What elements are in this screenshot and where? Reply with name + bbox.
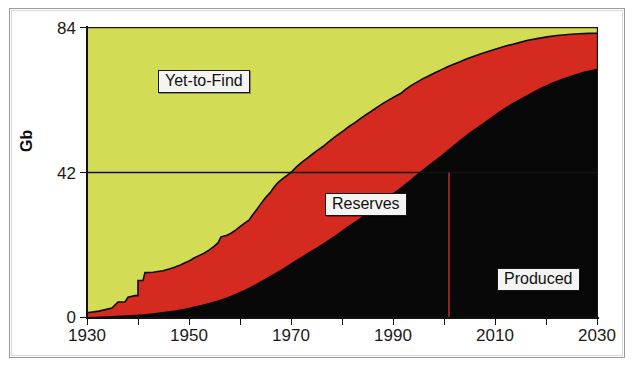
x-tick-label-1950: 1950 [159, 326, 219, 346]
y-axis-title: Gb [18, 130, 36, 152]
x-tick-label-1970: 1970 [261, 326, 321, 346]
x-tick-2020 [546, 318, 547, 325]
x-tick-2000 [444, 318, 445, 325]
label-reserves: Reserves [325, 193, 407, 216]
chart-page: 84 42 0 Gb 1930 1950 1970 1990 2010 2030… [0, 0, 635, 368]
y-tick-84 [80, 27, 87, 28]
y-tick-label-42: 42 [16, 164, 76, 184]
y-tick-0 [80, 317, 87, 318]
y-tick-label-0: 0 [16, 308, 76, 328]
x-tick-label-1990: 1990 [363, 326, 423, 346]
x-tick-1950 [189, 318, 190, 325]
x-tick-1990 [393, 318, 394, 325]
y-tick-42 [80, 172, 87, 173]
x-tick-1930 [87, 318, 88, 325]
x-tick-label-1930: 1930 [57, 326, 117, 346]
y-tick-label-84: 84 [16, 19, 76, 39]
x-tick-1980 [342, 318, 343, 325]
x-tick-1970 [291, 318, 292, 325]
x-tick-1940 [138, 318, 139, 325]
label-yet-to-find: Yet-to-Find [158, 70, 250, 93]
x-tick-2030 [597, 318, 598, 325]
x-tick-label-2010: 2010 [465, 326, 525, 346]
x-tick-label-2030: 2030 [567, 326, 627, 346]
x-tick-2010 [495, 318, 496, 325]
x-tick-1960 [240, 318, 241, 325]
label-produced: Produced [497, 268, 580, 291]
